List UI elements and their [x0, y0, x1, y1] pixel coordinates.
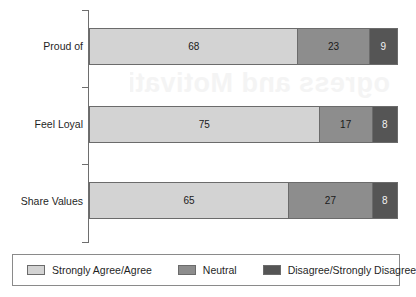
bar-segment-strongly-agree: 65: [89, 182, 289, 219]
legend-label: Neutral: [203, 264, 237, 276]
legend-swatch-icon: [263, 265, 281, 275]
bar-segment-value: 8: [382, 120, 388, 130]
legend-item-disagree: Disagree/Strongly Disagree: [263, 264, 416, 276]
legend-label: Strongly Agree/Agree: [52, 264, 152, 276]
bar-segment-disagree: 8: [373, 106, 398, 143]
legend-label: Disagree/Strongly Disagree: [288, 264, 416, 276]
bar-feel-loyal: 75 17 8: [89, 106, 398, 143]
bar-segment-value: 8: [382, 196, 388, 206]
legend-swatch-icon: [178, 265, 196, 275]
legend-item-strongly-agree: Strongly Agree/Agree: [27, 264, 152, 276]
axis-tick-2: [82, 164, 89, 165]
bar-segment-strongly-agree: 68: [89, 28, 298, 65]
bar-segment-value: 17: [340, 120, 351, 130]
category-label-feel-loyal: Feel Loyal: [0, 118, 83, 130]
bar-segment-disagree: 9: [370, 28, 398, 65]
axis-tick-1: [82, 87, 89, 88]
bar-segment-value: 27: [325, 196, 336, 206]
bar-segment-neutral: 23: [298, 28, 369, 65]
legend-item-neutral: Neutral: [178, 264, 237, 276]
bar-segment-value: 23: [328, 42, 339, 52]
bar-segment-value: 9: [381, 42, 387, 52]
bar-segment-strongly-agree: 75: [89, 106, 320, 143]
bar-segment-disagree: 8: [373, 182, 398, 219]
bar-proud-of: 68 23 9: [89, 28, 398, 65]
bar-segment-value: 68: [188, 42, 199, 52]
legend-swatch-icon: [27, 265, 45, 275]
category-label-share-values: Share Values: [0, 195, 83, 207]
bar-segment-neutral: 17: [320, 106, 373, 143]
axis-tick-3: [82, 242, 89, 243]
category-label-proud-of: Proud of: [0, 40, 83, 52]
axis-tick-0: [82, 10, 89, 11]
chart-legend: Strongly Agree/Agree Neutral Disagree/St…: [12, 254, 400, 286]
plot-area: Proud of 68 23 9 Feel Loyal 75 17 8: [0, 0, 414, 248]
bar-segment-value: 65: [184, 196, 195, 206]
bar-segment-value: 75: [199, 120, 210, 130]
bar-segment-neutral: 27: [289, 182, 372, 219]
bar-share-values: 65 27 8: [89, 182, 398, 219]
